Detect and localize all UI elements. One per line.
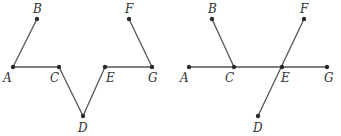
segment-DE	[83, 67, 105, 116]
point-label-D: D	[252, 121, 263, 135]
point-F	[127, 17, 131, 21]
point-C	[57, 65, 61, 69]
segment-GF	[129, 19, 152, 67]
segment-AB	[13, 19, 37, 67]
point-E	[103, 65, 107, 69]
left-figure: ABCDEFG	[2, 2, 158, 135]
point-G	[325, 65, 329, 69]
point-B	[210, 17, 214, 21]
point-D	[81, 114, 85, 118]
point-B	[35, 17, 39, 21]
point-label-G: G	[324, 71, 334, 85]
point-F	[302, 17, 306, 21]
point-label-A: A	[179, 71, 189, 85]
point-label-B: B	[32, 2, 42, 16]
point-label-F: F	[124, 2, 134, 16]
point-label-A: A	[2, 71, 12, 85]
point-D	[256, 114, 260, 118]
point-label-E: E	[105, 71, 115, 85]
segment-CD	[59, 67, 83, 116]
point-label-B: B	[207, 2, 217, 16]
geometry-diagram: ABCDEFG ABCDEFG	[0, 0, 341, 136]
point-label-E: E	[280, 71, 290, 85]
point-label-G: G	[148, 71, 158, 85]
point-label-F: F	[299, 2, 309, 16]
segment-BC	[212, 19, 234, 67]
right-figure: ABCDEFG	[179, 2, 334, 135]
point-label-C: C	[50, 71, 59, 85]
point-A	[11, 65, 15, 69]
point-label-D: D	[77, 121, 88, 135]
point-label-C: C	[225, 71, 234, 85]
point-A	[187, 65, 191, 69]
point-G	[150, 65, 154, 69]
point-C	[232, 65, 236, 69]
point-E	[280, 65, 284, 69]
